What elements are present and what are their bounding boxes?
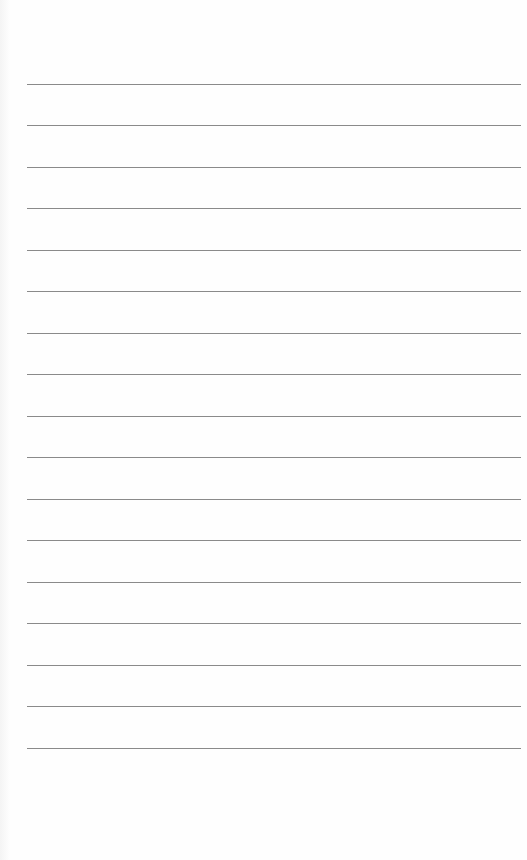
ruled-line (27, 499, 521, 500)
ruled-line (27, 748, 521, 749)
ruled-line (27, 665, 521, 666)
lined-paper-page (0, 0, 527, 860)
ruled-line (27, 125, 521, 126)
ruled-line (27, 291, 521, 292)
ruled-line (27, 457, 521, 458)
ruled-line (27, 416, 521, 417)
ruled-line (27, 374, 521, 375)
ruled-line (27, 250, 521, 251)
ruled-line (27, 623, 521, 624)
ruled-line (27, 582, 521, 583)
ruled-line (27, 167, 521, 168)
ruled-line (27, 84, 521, 85)
ruled-line (27, 208, 521, 209)
ruled-line (27, 540, 521, 541)
ruled-line (27, 706, 521, 707)
ruled-line (27, 333, 521, 334)
